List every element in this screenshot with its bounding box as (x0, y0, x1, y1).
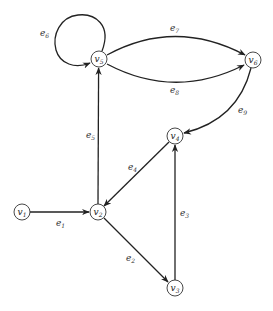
edge-label-e6: e6 (40, 28, 49, 39)
node-v3: v3 (167, 280, 183, 296)
node-v4: v4 (167, 128, 183, 144)
edge-label-e7: e7 (170, 23, 179, 34)
node-v6: v6 (245, 52, 261, 68)
edge-e5 (98, 68, 99, 204)
node-v5: v5 (91, 51, 107, 67)
edge-e2 (104, 218, 168, 282)
edge-e8 (107, 64, 244, 82)
edges-group (30, 15, 251, 282)
edge-labels-group: e1 e2 e3 e4 e5 e6 e7 e8 e9 (40, 23, 247, 264)
edge-label-e4: e4 (128, 162, 137, 173)
edge-label-e5: e5 (86, 130, 95, 141)
node-v1: v1 (14, 204, 30, 220)
edge-e9 (184, 68, 251, 133)
graph-svg: v1 v2 v3 v4 v5 v6 (0, 0, 273, 311)
edge-label-e8: e8 (170, 85, 179, 96)
edge-e4 (104, 142, 169, 206)
node-v2: v2 (90, 204, 106, 220)
edge-label-e2: e2 (126, 253, 135, 264)
edge-label-e1: e1 (56, 218, 65, 229)
edge-label-e3: e3 (180, 208, 189, 219)
graph-diagram: v1 v2 v3 v4 v5 v6 (0, 0, 273, 311)
edge-label-e9: e9 (238, 105, 247, 116)
edge-e7 (107, 37, 245, 56)
